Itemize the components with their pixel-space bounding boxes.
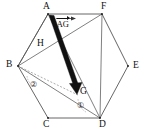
vertex-label-E: E — [133, 61, 139, 70]
vertex-label-B: B — [6, 60, 12, 69]
vector-overbar-arrowhead — [67, 16, 70, 20]
segment-F-D — [100, 14, 102, 118]
vertex-label-C: C — [43, 120, 49, 129]
point-A — [47, 13, 49, 15]
point-markers — [17, 13, 129, 119]
segment-B-D — [18, 66, 100, 118]
hexagon-path — [18, 14, 128, 118]
point-label-G: G — [80, 87, 87, 96]
figure-canvas — [0, 0, 146, 135]
vertex-label-A: A — [43, 2, 50, 11]
vertex-label-D: D — [99, 120, 106, 129]
point-label-H: H — [37, 39, 44, 48]
vector-name-label: AG — [57, 19, 69, 29]
point-E — [127, 65, 129, 67]
point-B — [17, 65, 19, 67]
vector-label-sAG: sAG — [54, 19, 69, 30]
vector-overbar-group: AG — [57, 19, 69, 29]
vertex-label-F: F — [101, 2, 106, 11]
hexagon-outline — [18, 14, 128, 118]
angle-mark-1-label: ① — [77, 101, 84, 110]
point-F — [101, 13, 103, 15]
angle-mark-2-label: ② — [30, 80, 37, 89]
top-arrow-head — [71, 16, 76, 20]
geometry-figure: A F E D C B H G ① ② sAG — [0, 0, 146, 135]
